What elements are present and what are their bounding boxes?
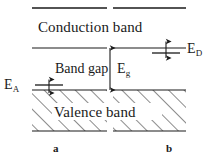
- panel-a-label: a: [53, 143, 59, 154]
- donor-level-symbol-label: ED: [187, 42, 202, 56]
- conduction-band-label: Conduction band: [38, 20, 142, 35]
- energy-gap-subscript: g: [126, 68, 131, 78]
- panel-b-label: b: [166, 143, 172, 154]
- acceptor-level-subscript: A: [13, 84, 20, 94]
- band-diagram-figure: Conduction band Valence band Band gap Eg…: [0, 0, 214, 163]
- energy-gap-symbol-label: Eg: [117, 62, 130, 76]
- valence-band-label: Valence band: [54, 105, 136, 120]
- donor-level-symbol: E: [187, 41, 196, 56]
- band-gap-label: Band gap: [55, 62, 108, 76]
- acceptor-level-symbol: E: [4, 77, 13, 92]
- energy-gap-symbol: E: [117, 61, 126, 76]
- donor-level-subscript: D: [196, 48, 203, 58]
- acceptor-level-symbol-label: EA: [4, 78, 19, 92]
